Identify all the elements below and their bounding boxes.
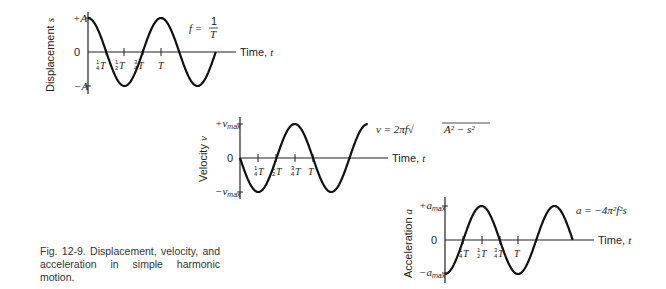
x-ticks: 14T 12T 34T T bbox=[96, 59, 165, 71]
svg-text:A² − s²: A² − s² bbox=[443, 123, 475, 135]
svg-text:T: T bbox=[295, 166, 302, 177]
svg-text:T: T bbox=[210, 28, 217, 40]
x-ticks: 14T 12T 34T T bbox=[254, 165, 315, 177]
displacement-chart: +A 0 −A 14T 12T 34T T Time, t Displaceme… bbox=[44, 12, 274, 94]
svg-text:T: T bbox=[158, 60, 165, 71]
figure-caption: Fig. 12-9. Displacement, velocity, and a… bbox=[40, 245, 220, 284]
y-tick-minus-vmax: −vmax bbox=[215, 185, 241, 198]
svg-text:T: T bbox=[514, 248, 521, 259]
equation-acceleration: a = −4π²f²s bbox=[576, 204, 627, 216]
y-tick-zero: 0 bbox=[74, 46, 80, 58]
y-axis-label: Acceleration a bbox=[402, 208, 414, 278]
y-tick-plusA: +A bbox=[73, 12, 87, 24]
x-axis-label: Time, t bbox=[598, 234, 632, 246]
x-axis-label: Time, t bbox=[240, 46, 274, 58]
svg-text:T: T bbox=[138, 60, 145, 71]
equation-velocity: v = 2πf√ A² − s² bbox=[376, 123, 490, 135]
svg-text:T: T bbox=[258, 166, 265, 177]
y-tick-minus-amax: −amax bbox=[419, 266, 446, 279]
y-axis-label: Displacement s bbox=[44, 18, 56, 92]
svg-text:1: 1 bbox=[211, 15, 217, 27]
svg-text:f =: f = bbox=[189, 22, 202, 34]
x-axis-label: Time, t bbox=[392, 152, 426, 164]
svg-text:T: T bbox=[119, 60, 126, 71]
svg-text:T: T bbox=[481, 248, 488, 259]
y-axis-label: Velocity v bbox=[197, 136, 209, 182]
y-tick-zero: 0 bbox=[227, 152, 233, 164]
svg-text:T: T bbox=[276, 166, 283, 177]
acceleration-chart: +amax 0 −amax 14T 12T 34T T Time, t Acce… bbox=[402, 197, 632, 283]
x-ticks: 14T 12T 34T T bbox=[459, 247, 521, 259]
svg-text:T: T bbox=[463, 248, 470, 259]
y-tick-plus-vmax: +vmax bbox=[215, 117, 241, 130]
velocity-chart: +vmax 0 −vmax 14T 12T 34T T Time, t Velo… bbox=[197, 117, 490, 199]
svg-text:T: T bbox=[308, 166, 315, 177]
svg-text:v = 2πf√: v = 2πf√ bbox=[376, 123, 415, 135]
equation-frequency: f = 1 T bbox=[189, 15, 218, 40]
y-tick-minusA: −A bbox=[74, 80, 88, 92]
y-tick-zero: 0 bbox=[431, 234, 437, 246]
svg-text:T: T bbox=[100, 60, 107, 71]
y-tick-plus-amax: +amax bbox=[419, 199, 446, 212]
